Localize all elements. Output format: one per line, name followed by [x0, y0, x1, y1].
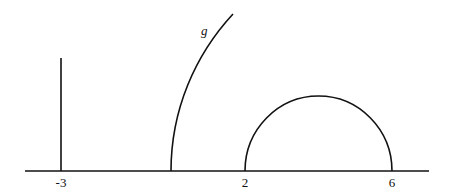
semicircle [245, 96, 392, 171]
diagram-canvas: g -3 2 6 [0, 0, 449, 193]
tick-label-2: 2 [242, 175, 249, 190]
tick-label-neg3: -3 [56, 175, 67, 190]
tick-label-6: 6 [389, 175, 396, 190]
curve-label-g: g [201, 23, 208, 38]
